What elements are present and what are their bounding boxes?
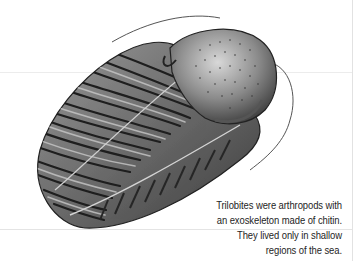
page: Trilobites were arthropods with an exosk… — [0, 0, 356, 261]
caption-line-1: Trilobites were arthropods with — [196, 198, 342, 213]
caption-line-3: They lived only in shallow — [196, 228, 342, 243]
caption: Trilobites were arthropods with an exosk… — [196, 198, 342, 258]
caption-line-2: an exoskeleton made of chitin. — [196, 213, 342, 228]
caption-line-4: regions of the sea. — [196, 243, 342, 258]
